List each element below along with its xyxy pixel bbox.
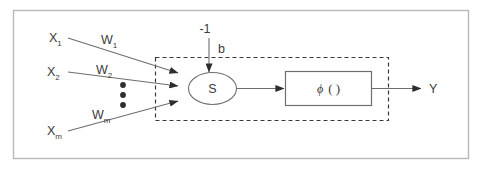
neuron-diagram: X1 X2 Xm W1 W2 Wm -1 b S ϕ( ) Y	[0, 0, 482, 171]
output-label: Y	[429, 82, 438, 96]
bias-input-label: -1	[199, 22, 210, 36]
activation-function-label: ϕ( )	[317, 81, 340, 96]
weight-label-m-base: W	[92, 108, 104, 122]
input-label-2-sub: 2	[55, 73, 60, 82]
bias-weight-label: b	[218, 42, 225, 56]
input-label-1-sub: 1	[57, 39, 62, 48]
weight-label-m-sub: m	[104, 116, 111, 125]
weight-label-1-sub: 1	[113, 41, 118, 50]
input-label-m-sub: m	[55, 132, 62, 141]
weight-label-2-base: W	[96, 63, 108, 77]
neuron-diagram-svg: X1 X2 Xm W1 W2 Wm -1 b S ϕ( ) Y	[0, 0, 482, 171]
ellipsis-dot-3	[120, 102, 126, 108]
summation-label: S	[208, 82, 216, 96]
figure-frame	[14, 11, 469, 159]
phi-symbol: ϕ	[317, 82, 323, 96]
ellipsis-dot-1	[120, 82, 126, 88]
phi-parens: ( )	[328, 81, 340, 96]
weight-label-1-base: W	[101, 33, 113, 47]
weight-label-2-sub: 2	[108, 71, 113, 80]
ellipsis-dot-2	[120, 92, 126, 98]
